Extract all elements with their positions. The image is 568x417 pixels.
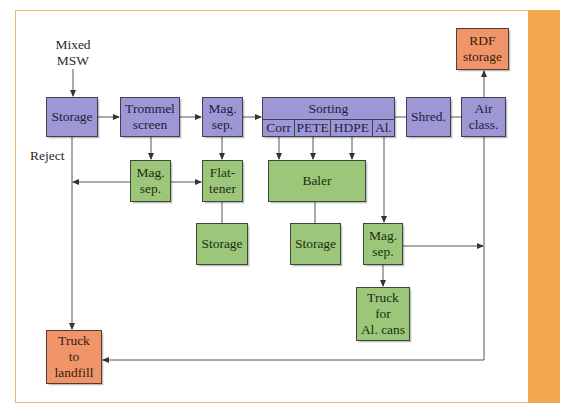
reject-label: Reject xyxy=(30,148,64,164)
node-mag-sep-3[interactable]: Mag. sep. xyxy=(363,223,403,265)
sorting-cell-al[interactable]: Al. xyxy=(373,119,394,136)
sorting-cells: Corr PETE HDPE Al. xyxy=(263,119,394,136)
node-label: Storage xyxy=(51,109,92,125)
node-label-line: screen xyxy=(133,117,167,133)
cell-label: PETE xyxy=(296,120,328,136)
node-label-line: RDF xyxy=(469,33,495,49)
node-label-line: landfill xyxy=(55,365,94,381)
node-trommel-screen[interactable]: Trommel screen xyxy=(120,97,180,137)
node-label-line: Truck xyxy=(58,333,90,349)
node-label: Baler xyxy=(302,173,331,189)
node-label-line: Mag. xyxy=(136,165,164,181)
node-rdf-storage[interactable]: RDF storage xyxy=(456,28,509,70)
node-label-line: sep. xyxy=(212,117,233,133)
sorting-cell-corr[interactable]: Corr xyxy=(263,119,295,136)
node-label-line: Al. cans xyxy=(361,322,405,338)
node-label-line: to xyxy=(69,349,80,365)
node-label: Storage xyxy=(295,236,336,252)
node-label-line: Mag. xyxy=(369,228,397,244)
node-label-line: Flat- xyxy=(210,165,236,181)
node-truck-al-cans[interactable]: Truck for Al. cans xyxy=(356,287,410,341)
node-flattener[interactable]: Flat- tener xyxy=(202,160,243,202)
node-storage-flattened[interactable]: Storage xyxy=(196,223,248,265)
cell-label: Corr xyxy=(266,120,291,136)
sorting-cell-hdpe[interactable]: HDPE xyxy=(331,119,373,136)
cell-label: HDPE xyxy=(334,120,369,136)
input-label-line-1: Mixed xyxy=(48,37,98,53)
sorting-cell-pete[interactable]: PETE xyxy=(295,119,331,136)
node-label-line: Trommel xyxy=(125,101,175,117)
node-truck-landfill[interactable]: Truck to landfill xyxy=(46,330,102,384)
node-mag-sep-2[interactable]: Mag. sep. xyxy=(130,160,171,202)
input-label-mixed-msw: Mixed MSW xyxy=(48,37,98,69)
node-label-line: class. xyxy=(469,117,499,133)
input-label-line-2: MSW xyxy=(48,53,98,69)
node-label-line: Mag. xyxy=(208,101,236,117)
node-label-line: for xyxy=(375,306,391,322)
node-storage-input[interactable]: Storage xyxy=(46,97,98,137)
node-label-line: tener xyxy=(209,181,236,197)
node-label-line: storage xyxy=(463,49,502,65)
node-label-line: Truck xyxy=(367,290,399,306)
node-label: Shred. xyxy=(411,109,446,125)
node-label-line: sep. xyxy=(372,244,393,260)
sorting-header: Sorting xyxy=(263,98,394,120)
node-shredder[interactable]: Shred. xyxy=(406,97,451,137)
node-label-line: sep. xyxy=(140,181,161,197)
node-mag-sep-1[interactable]: Mag. sep. xyxy=(202,97,243,137)
cell-label: Al. xyxy=(375,120,392,136)
node-label: Sorting xyxy=(309,101,349,117)
node-label: Storage xyxy=(201,236,242,252)
node-storage-baled[interactable]: Storage xyxy=(290,223,341,265)
node-label-line: Air xyxy=(475,101,493,117)
node-air-classifier[interactable]: Air class. xyxy=(461,97,506,137)
node-baler[interactable]: Baler xyxy=(268,160,366,202)
node-sorting[interactable]: Sorting Corr PETE HDPE Al. xyxy=(262,97,395,137)
